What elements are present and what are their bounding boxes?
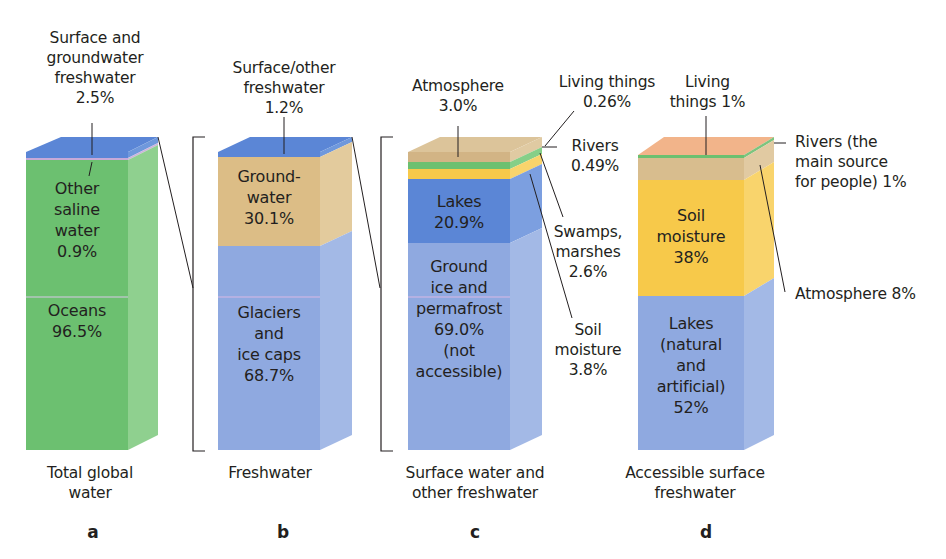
zoom-line-a-b: [158, 137, 193, 288]
text-line: ice and: [406, 277, 512, 298]
text-line: 52%: [638, 397, 744, 418]
label-c-lakes: Lakes 20.9%: [408, 191, 510, 233]
panel-letter-d: d: [686, 522, 726, 542]
text-line: 2.5%: [20, 88, 170, 108]
label-d-atmosphere: Atmosphere 8%: [795, 284, 945, 304]
caption-a: Total global water: [10, 463, 170, 503]
text-line: 20.9%: [408, 212, 510, 233]
text-line: Soil: [550, 320, 626, 340]
text-line: freshwater: [20, 68, 170, 88]
text-line: and: [218, 323, 320, 344]
text-line: 68.7%: [218, 365, 320, 386]
panel-letter-c: c: [455, 522, 495, 542]
text-line: 38%: [638, 247, 744, 268]
label-d-lakes: Lakes (natural and artificial) 52%: [638, 313, 744, 418]
text-line: Atmosphere: [408, 76, 508, 96]
label-a-top: Surface and groundwater freshwater 2.5%: [20, 28, 170, 108]
caption-c: Surface water and other freshwater: [385, 463, 565, 503]
text-line: Surface and: [20, 28, 170, 48]
text-line: groundwater: [20, 48, 170, 68]
text-line: artificial): [638, 376, 744, 397]
label-b-groundwater: Ground- water 30.1%: [218, 166, 320, 229]
text-line: Swamps,: [550, 222, 626, 242]
text-line: Soil: [638, 205, 744, 226]
text-line: Other: [26, 178, 128, 199]
label-c-living-things: Living things 0.26%: [552, 72, 662, 112]
text-line: moisture: [638, 226, 744, 247]
text-line: 96.5%: [26, 321, 128, 342]
text-line: Lakes: [408, 191, 510, 212]
text-line: freshwater: [214, 78, 354, 98]
text-line: permafrost: [406, 298, 512, 319]
text-line: (natural: [638, 334, 744, 355]
text-line: Atmosphere 8%: [795, 284, 945, 304]
text-line: Lakes: [638, 313, 744, 334]
label-b-glaciers: Glaciers and ice caps 68.7%: [218, 302, 320, 386]
text-line: and: [638, 355, 744, 376]
text-line: Ground-: [218, 166, 320, 187]
text-line: Surface water and: [385, 463, 565, 483]
label-d-living-things: Living things 1%: [660, 72, 755, 112]
text-line: Living: [660, 72, 755, 92]
text-line: 0.26%: [552, 92, 662, 112]
text-line: water: [10, 483, 170, 503]
text-line: marshes: [550, 242, 626, 262]
text-line: other freshwater: [385, 483, 565, 503]
text-line: Glaciers: [218, 302, 320, 323]
caption-d: Accessible surface freshwater: [615, 463, 775, 503]
text-line: water: [26, 220, 128, 241]
text-line: Surface/other: [214, 58, 354, 78]
caption-b: Freshwater: [200, 463, 340, 483]
label-a-oceans: Oceans 96.5%: [26, 300, 128, 342]
text-line: 3.8%: [550, 360, 626, 380]
text-line: 30.1%: [218, 208, 320, 229]
bracket-b: [193, 137, 205, 451]
text-line: 2.6%: [550, 262, 626, 282]
text-line: saline: [26, 199, 128, 220]
text-line: Oceans: [26, 300, 128, 321]
text-line: Ground: [406, 256, 512, 277]
panel-letter-a: a: [73, 522, 113, 542]
label-c-ground-ice: Ground ice and permafrost 69.0% (not acc…: [406, 256, 512, 382]
text-line: Living things: [552, 72, 662, 92]
label-c-rivers: Rivers 0.49%: [560, 136, 630, 176]
bracket-c: [381, 137, 393, 451]
text-line: 1.2%: [214, 98, 354, 118]
zoom-line-b-c: [352, 137, 380, 288]
label-b-top: Surface/other freshwater 1.2%: [214, 58, 354, 118]
text-line: 0.49%: [560, 156, 630, 176]
text-line: water: [218, 187, 320, 208]
label-a-other-saline: Other saline water 0.9%: [26, 178, 128, 262]
text-line: Total global: [10, 463, 170, 483]
text-line: Accessible surface: [615, 463, 775, 483]
text-line: (not: [406, 340, 512, 361]
label-c-swamps: Swamps, marshes 2.6%: [550, 222, 626, 282]
text-line: accessible): [406, 361, 512, 382]
text-line: 0.9%: [26, 241, 128, 262]
text-line: things 1%: [660, 92, 755, 112]
text-line: ice caps: [218, 344, 320, 365]
label-c-soil-moisture: Soil moisture 3.8%: [550, 320, 626, 380]
text-line: 3.0%: [408, 96, 508, 116]
text-line: 69.0%: [406, 319, 512, 340]
text-line: freshwater: [615, 483, 775, 503]
label-d-soil-moisture: Soil moisture 38%: [638, 205, 744, 268]
panel-letter-b: b: [263, 522, 303, 542]
text-line: for people) 1%: [795, 172, 945, 192]
text-line: Rivers: [560, 136, 630, 156]
label-c-atmosphere: Atmosphere 3.0%: [408, 76, 508, 116]
text-line: Freshwater: [200, 463, 340, 483]
text-line: main source: [795, 152, 945, 172]
text-line: moisture: [550, 340, 626, 360]
label-d-rivers: Rivers (the main source for people) 1%: [795, 132, 945, 192]
text-line: Rivers (the: [795, 132, 945, 152]
